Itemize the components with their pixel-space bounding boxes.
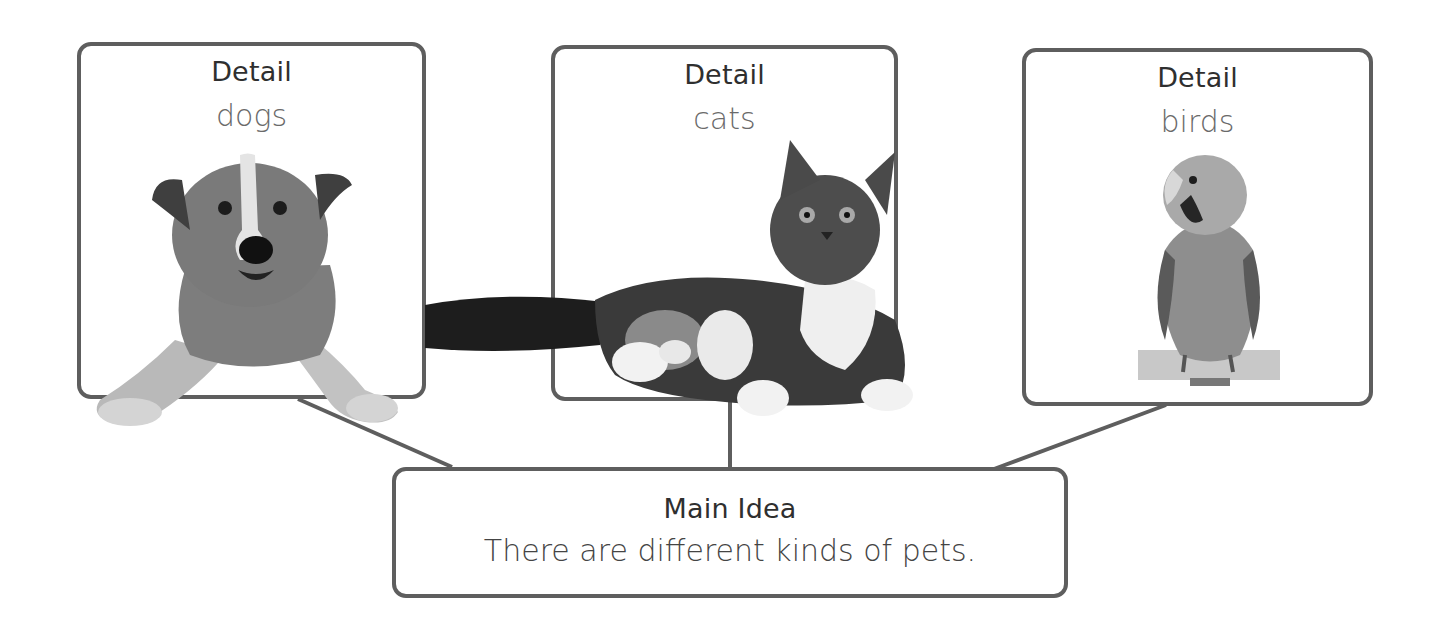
connector-birds-to-main bbox=[994, 405, 1166, 469]
main-idea-text: There are different kinds of pets. bbox=[396, 533, 1064, 568]
main-idea-box: Main Idea There are different kinds of p… bbox=[392, 467, 1068, 598]
detail-text: birds bbox=[1026, 104, 1369, 139]
detail-heading: Detail bbox=[555, 59, 894, 90]
bird-photo bbox=[1135, 150, 1285, 395]
main-idea-heading: Main Idea bbox=[396, 493, 1064, 524]
detail-text: dogs bbox=[81, 98, 422, 133]
detail-heading: Detail bbox=[1026, 62, 1369, 93]
detail-text: cats bbox=[555, 101, 894, 136]
cat-photo bbox=[425, 140, 915, 420]
detail-heading: Detail bbox=[81, 56, 422, 87]
dog-photo bbox=[90, 150, 410, 430]
